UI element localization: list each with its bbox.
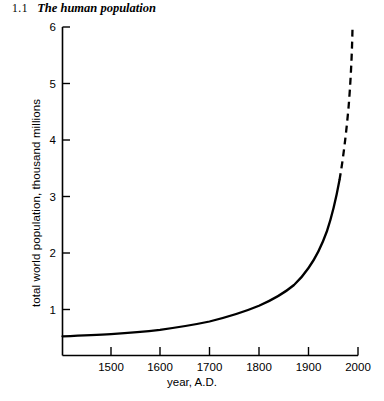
population-line-chart: 6 5 4 3 2 1 1500 1600 1700 1800 1900 200… bbox=[0, 0, 384, 401]
svg-text:1900: 1900 bbox=[296, 361, 322, 373]
population-curve-solid bbox=[63, 180, 340, 336]
svg-text:1700: 1700 bbox=[197, 361, 223, 373]
svg-text:2: 2 bbox=[50, 247, 56, 259]
svg-text:1500: 1500 bbox=[98, 361, 124, 373]
population-curve-dashed bbox=[340, 28, 353, 180]
y-axis-tick-labels: 6 5 4 3 2 1 bbox=[50, 21, 57, 316]
x-axis-tick-labels: 1500 1600 1700 1800 1900 2000 bbox=[98, 361, 371, 373]
svg-text:4: 4 bbox=[50, 134, 57, 146]
y-axis-label-wrapper: total world population, thousand million… bbox=[0, 0, 1, 1]
y-axis-label: total world population, thousand million… bbox=[30, 99, 42, 307]
x-axis-label: year, A.D. bbox=[0, 376, 384, 388]
x-axis-ticks bbox=[111, 347, 358, 356]
svg-text:6: 6 bbox=[50, 21, 56, 33]
svg-text:2000: 2000 bbox=[345, 361, 371, 373]
svg-text:5: 5 bbox=[50, 78, 56, 90]
figure-human-population: 1.1The human population 6 5 4 3 2 1 bbox=[0, 0, 384, 401]
y-axis-ticks bbox=[63, 27, 71, 310]
svg-text:1600: 1600 bbox=[147, 361, 173, 373]
svg-text:1: 1 bbox=[50, 304, 56, 316]
svg-text:3: 3 bbox=[50, 191, 56, 203]
svg-text:1800: 1800 bbox=[246, 361, 272, 373]
